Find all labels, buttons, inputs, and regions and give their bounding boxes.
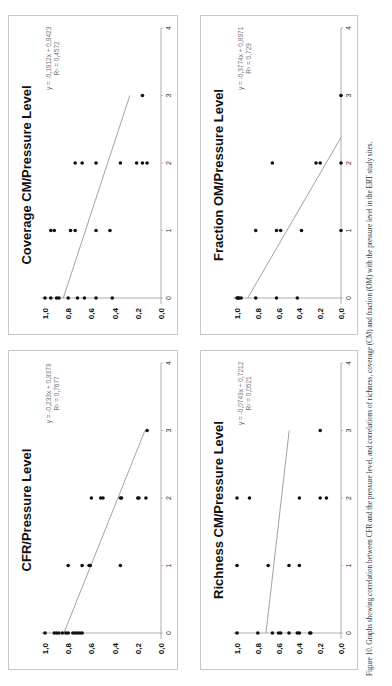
data-point — [101, 496, 105, 500]
data-point — [339, 94, 343, 98]
x-tick-label: 0 — [165, 631, 172, 635]
data-point — [66, 296, 70, 300]
data-point — [235, 496, 239, 500]
data-point — [80, 564, 84, 568]
x-tick-label: 0 — [345, 631, 352, 635]
data-point — [296, 296, 300, 300]
r-squared: R² = 0,7677 — [53, 376, 60, 411]
data-point — [339, 161, 343, 165]
data-point — [110, 296, 114, 300]
data-point — [80, 161, 84, 165]
data-point — [80, 631, 84, 635]
data-point — [43, 631, 47, 635]
y-tick-label: 0,6 — [275, 307, 284, 319]
y-tick-label: 0,4 — [111, 307, 120, 319]
data-point — [318, 496, 322, 500]
data-point — [137, 496, 141, 500]
y-tick-label: 0,2 — [316, 307, 325, 319]
data-point — [314, 161, 318, 165]
trendline — [63, 96, 130, 299]
chart-cfr-panel: CFR/Pressure Level0,00,20,40,60,81,00123… — [8, 350, 178, 670]
x-tick-label: 3 — [345, 93, 352, 97]
x-tick-label: 1 — [165, 563, 172, 567]
scatter-plot: Fraction OM/Pressure Level0,00,20,40,60,… — [201, 16, 357, 334]
data-point — [94, 229, 98, 233]
data-point — [66, 564, 70, 568]
chart-title: Fraction OM/Pressure Level — [211, 89, 226, 261]
x-tick-label: 1 — [345, 228, 352, 232]
data-point — [73, 229, 77, 233]
y-tick-label: 1,0 — [41, 307, 50, 319]
data-point — [61, 631, 65, 635]
y-tick-label: 0,0 — [337, 307, 346, 319]
trendline — [64, 431, 145, 634]
chart-title: CFR/Pressure Level — [19, 449, 34, 572]
x-tick-label: 3 — [165, 428, 172, 432]
figure-caption: Figure 10. Graphs showing correlation be… — [366, 10, 375, 676]
data-point — [235, 631, 239, 635]
data-point — [287, 631, 291, 635]
data-point — [279, 631, 283, 635]
x-tick-label: 4 — [165, 361, 172, 365]
data-point — [69, 229, 73, 233]
chart-coverage-cm-panel: Coverage CM/Pressure Level0,00,20,40,60,… — [8, 15, 178, 335]
y-tick-label: 0,0 — [157, 307, 166, 319]
y-tick-label: 0,4 — [295, 642, 304, 654]
trendline-equation: y = -0,1912x + 0,8423 — [45, 26, 53, 90]
y-tick-label: 0,8 — [64, 307, 73, 319]
data-point — [318, 429, 322, 433]
data-point — [141, 94, 145, 98]
data-point — [339, 229, 343, 233]
scatter-plot: Coverage CM/Pressure Level0,00,20,40,60,… — [9, 16, 177, 334]
rotated-page: CFR/Pressure Level0,00,20,40,60,81,00123… — [0, 0, 392, 686]
y-tick-label: 0,2 — [316, 642, 325, 654]
data-point — [90, 496, 94, 500]
trendline — [266, 431, 289, 634]
y-tick-label: 1,0 — [233, 307, 242, 319]
y-tick-label: 0,4 — [295, 307, 304, 319]
data-point — [57, 296, 61, 300]
data-point — [298, 631, 302, 635]
data-point — [275, 229, 279, 233]
data-point — [49, 296, 53, 300]
x-tick-label: 3 — [165, 93, 172, 97]
y-tick-label: 0,6 — [87, 642, 96, 654]
x-tick-label: 0 — [165, 296, 172, 300]
trendline — [248, 137, 341, 298]
scatter-plot: Richness CM/Pressure Level0,00,20,40,60,… — [201, 351, 357, 669]
scatter-plot: CFR/Pressure Level0,00,20,40,60,81,00123… — [9, 351, 177, 669]
x-tick-label: 3 — [345, 428, 352, 432]
y-tick-label: 0,0 — [337, 642, 346, 654]
y-tick-label: 0,6 — [275, 642, 284, 654]
data-point — [271, 161, 275, 165]
data-point — [73, 161, 77, 165]
data-point — [119, 564, 123, 568]
data-point — [52, 229, 56, 233]
data-point — [254, 296, 258, 300]
chart-richness-cm-panel: Richness CM/Pressure Level0,00,20,40,60,… — [200, 350, 358, 670]
data-point — [108, 229, 112, 233]
x-tick-label: 4 — [345, 361, 352, 365]
data-point — [57, 631, 61, 635]
data-point — [144, 496, 148, 500]
data-point — [235, 564, 239, 568]
data-point — [318, 161, 322, 165]
x-tick-label: 1 — [165, 228, 172, 232]
x-tick-label: 2 — [165, 161, 172, 165]
trendline-equation: y = -0,3774x + 0,8971 — [237, 26, 245, 90]
r-squared: R² = 0,729 — [245, 43, 252, 74]
y-tick-label: 0,0 — [157, 642, 166, 654]
chart-fraction-om-panel: Fraction OM/Pressure Level0,00,20,40,60,… — [200, 15, 358, 335]
data-point — [298, 564, 302, 568]
data-point — [254, 229, 258, 233]
x-tick-label: 0 — [345, 296, 352, 300]
y-tick-label: 1,0 — [233, 642, 242, 654]
y-tick-label: 0,8 — [64, 642, 73, 654]
data-point — [300, 229, 304, 233]
x-tick-label: 4 — [345, 26, 352, 30]
data-point — [287, 564, 291, 568]
data-point — [279, 229, 283, 233]
data-point — [88, 564, 92, 568]
data-point — [266, 564, 270, 568]
trendline-equation: y = -0,0743x + 0,7212 — [237, 361, 245, 425]
